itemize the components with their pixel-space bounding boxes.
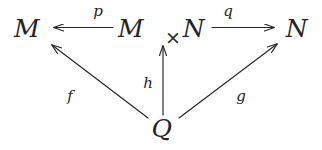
edge-label-q: q: [223, 4, 233, 19]
arrow-f: [52, 45, 148, 118]
edge-label-h: h: [143, 76, 153, 91]
node-label-q: Q: [152, 116, 173, 141]
node-label-m-left: M: [14, 16, 40, 41]
product-times-symbol: ×: [162, 26, 184, 48]
edge-label-f: f: [67, 89, 73, 104]
arrow-g: [179, 44, 277, 118]
node-label-product-m: M: [118, 16, 144, 41]
node-label-n-right: N: [286, 16, 308, 41]
commutative-diagram: M M × N N Q p q f h g: [0, 0, 322, 150]
edge-label-g: g: [236, 89, 246, 104]
edge-label-p: p: [93, 4, 103, 19]
node-label-product-n: N: [183, 16, 205, 41]
